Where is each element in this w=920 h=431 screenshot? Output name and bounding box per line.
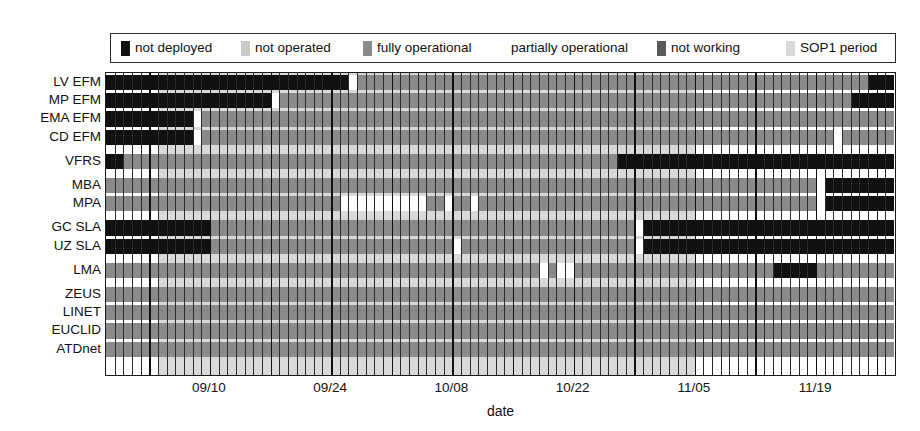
gridline <box>271 73 272 375</box>
gridline <box>478 73 479 375</box>
gridline <box>227 73 228 375</box>
gridline <box>366 73 367 375</box>
timeline-plot-area <box>105 72 896 376</box>
gridline <box>236 73 237 375</box>
gridline <box>643 73 644 375</box>
gridline <box>392 73 393 375</box>
legend-item-fully-operational: fully operational <box>363 41 472 56</box>
y-axis-label-atdnet: ATDnet <box>56 342 101 356</box>
y-axis-label-lma: LMA <box>73 263 101 277</box>
chart-legend: not deployednot operatedfully operationa… <box>110 33 896 63</box>
gridline <box>686 73 687 375</box>
legend-label: fully operational <box>377 41 472 55</box>
gridline <box>851 73 852 375</box>
legend-item-partially-operational: partially operational <box>511 41 628 56</box>
y-axis-label-mpa: MPA <box>73 196 101 210</box>
gridline <box>522 73 523 375</box>
x-axis-tick-label: 10/22 <box>556 381 590 395</box>
gridline <box>158 73 159 375</box>
gridline <box>816 73 817 375</box>
y-axis-label-euclid: EUCLID <box>51 323 101 337</box>
gridline <box>210 73 211 375</box>
gridline <box>123 73 124 375</box>
gridline <box>193 73 194 375</box>
gridline <box>288 73 289 375</box>
gridline <box>859 73 860 375</box>
legend-swatch-icon <box>121 41 130 56</box>
gridline <box>132 73 133 375</box>
gridline <box>825 73 826 375</box>
gridline <box>253 73 254 375</box>
gridline <box>833 73 834 375</box>
x-axis-tick-label: 09/10 <box>192 381 226 395</box>
gridline <box>678 73 679 375</box>
gridline <box>444 73 445 375</box>
legend-swatch-icon <box>363 41 372 56</box>
gridline <box>747 73 748 375</box>
gridline <box>712 73 713 375</box>
gridline <box>400 73 401 375</box>
legend-label: SOP1 period <box>800 41 877 55</box>
gridline <box>167 73 168 375</box>
gridline <box>773 73 774 375</box>
gridline <box>262 73 263 375</box>
gridline <box>305 73 306 375</box>
y-axis-label-linet: LINET <box>63 305 101 319</box>
legend-item-sop1-period: SOP1 period <box>786 41 877 56</box>
gridline <box>496 73 497 375</box>
gridline <box>383 73 384 375</box>
y-axis-labels: LV EFMMP EFMEMA EFMCD EFMVFRSMBAMPAGC SL… <box>0 72 101 376</box>
y-axis-label-gc-sla: GC SLA <box>51 220 101 234</box>
gridline <box>435 73 436 375</box>
gridline <box>426 73 427 375</box>
gridline <box>764 73 765 375</box>
legend-item-not-working: not working <box>657 41 740 56</box>
gridline <box>582 73 583 375</box>
gridline <box>695 73 696 375</box>
gridline <box>790 73 791 375</box>
gridline <box>591 73 592 375</box>
gridline <box>669 73 670 375</box>
gridline <box>314 73 315 375</box>
vertical-gridlines <box>106 73 895 375</box>
legend-swatch-icon <box>241 41 250 56</box>
gridline <box>452 73 453 375</box>
legend-swatch-icon <box>786 41 795 56</box>
gridline <box>565 73 566 375</box>
gridline <box>279 73 280 375</box>
legend-label: not operated <box>255 41 331 55</box>
gridline <box>626 73 627 375</box>
gridline <box>348 73 349 375</box>
gridline <box>868 73 869 375</box>
gridline <box>703 73 704 375</box>
y-axis-label-mba: MBA <box>72 178 101 192</box>
gridline <box>548 73 549 375</box>
gridline <box>574 73 575 375</box>
gridline <box>184 73 185 375</box>
gridline <box>409 73 410 375</box>
y-axis-label-uz-sla: UZ SLA <box>54 239 101 253</box>
gridline <box>807 73 808 375</box>
instrument-status-timeline-chart: not deployednot operatedfully operationa… <box>0 0 920 431</box>
x-axis-tick-label: 11/19 <box>799 381 832 395</box>
x-axis-tick-label: 10/08 <box>434 381 468 395</box>
gridline <box>418 73 419 375</box>
gridline <box>470 73 471 375</box>
gridline <box>738 73 739 375</box>
gridline <box>652 73 653 375</box>
gridline <box>729 73 730 375</box>
gridline <box>504 73 505 375</box>
gridline <box>115 73 116 375</box>
y-axis-label-mp-efm: MP EFM <box>49 93 101 107</box>
gridline <box>539 73 540 375</box>
gridline <box>322 73 323 375</box>
y-axis-label-vfrs: VFRS <box>65 154 101 168</box>
legend-swatch-icon <box>657 41 666 56</box>
gridline <box>513 73 514 375</box>
y-axis-label-lv-efm: LV EFM <box>53 75 101 89</box>
gridline <box>781 73 782 375</box>
gridline <box>487 73 488 375</box>
gridline <box>755 73 756 375</box>
gridline <box>357 73 358 375</box>
gridline <box>799 73 800 375</box>
